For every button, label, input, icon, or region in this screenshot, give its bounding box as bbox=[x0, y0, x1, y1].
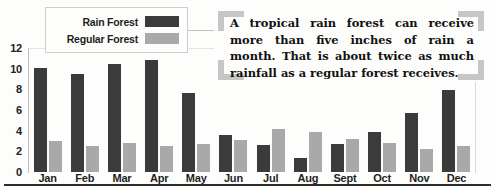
x-axis-label-apr: Apr bbox=[141, 172, 178, 184]
legend-item-rain-forest: Rain Forest bbox=[46, 13, 179, 30]
bar-jan-rain-forest bbox=[34, 68, 47, 172]
y-axis-tick-label: 12 bbox=[10, 42, 22, 54]
x-axis-label-mar: Mar bbox=[103, 172, 140, 184]
y-axis-tick-label: 0 bbox=[16, 166, 22, 178]
annotation-callout: A tropical rain forest can receive more … bbox=[214, 8, 486, 82]
bar-mar-regular-forest bbox=[123, 143, 136, 172]
x-axis-label-aug: Aug bbox=[289, 172, 326, 184]
bar-feb-regular-forest bbox=[86, 146, 99, 172]
bar-group-feb bbox=[66, 48, 103, 172]
bracket-top-right-vertical bbox=[478, 11, 484, 31]
bar-may-rain-forest bbox=[182, 93, 195, 172]
x-axis-label-feb: Feb bbox=[66, 172, 103, 184]
bar-group-mar bbox=[103, 48, 140, 172]
legend-swatch-rain-forest bbox=[145, 16, 179, 27]
y-axis-tick-label: 10 bbox=[10, 63, 22, 75]
bar-group-jan bbox=[29, 48, 66, 172]
x-axis-label-jun: Jun bbox=[215, 172, 252, 184]
bar-sept-regular-forest bbox=[346, 139, 359, 172]
legend-swatch-regular-forest bbox=[145, 33, 179, 44]
x-axis-label-jul: Jul bbox=[252, 172, 289, 184]
legend-label-rain-forest: Rain Forest bbox=[82, 16, 138, 28]
bar-jul-rain-forest bbox=[257, 145, 270, 172]
bar-oct-regular-forest bbox=[383, 143, 396, 172]
legend-label-regular-forest: Regular Forest bbox=[67, 33, 138, 45]
y-axis-tick-label: 2 bbox=[16, 145, 22, 157]
bar-group-apr bbox=[141, 48, 178, 172]
bar-jul-regular-forest bbox=[272, 129, 285, 172]
x-axis: JanFebMarAprMayJunJulAugSeptOctNovDec bbox=[29, 172, 475, 184]
bracket-bottom-left-vertical bbox=[218, 60, 224, 80]
bar-nov-rain-forest bbox=[405, 113, 418, 172]
callout-text: A tropical rain forest can receive more … bbox=[230, 15, 474, 81]
bracket-bottom-right-vertical bbox=[478, 60, 484, 80]
bar-sept-rain-forest bbox=[331, 144, 344, 172]
rainfall-bar-chart: 024681012 JanFebMarAprMayJunJulAugSeptOc… bbox=[0, 0, 495, 190]
x-axis-label-nov: Nov bbox=[401, 172, 438, 184]
y-axis-tick-label: 6 bbox=[16, 104, 22, 116]
x-axis-label-may: May bbox=[178, 172, 215, 184]
x-axis-label-jan: Jan bbox=[29, 172, 66, 184]
y-axis-tick-label: 8 bbox=[16, 83, 22, 95]
bar-dec-rain-forest bbox=[442, 90, 455, 172]
bar-jan-regular-forest bbox=[49, 141, 62, 172]
bar-apr-rain-forest bbox=[145, 60, 158, 172]
chart-legend: Rain Forest Regular Forest bbox=[45, 7, 188, 53]
bracket-top-left-vertical bbox=[218, 11, 224, 31]
bar-nov-regular-forest bbox=[420, 149, 433, 172]
bar-mar-rain-forest bbox=[108, 64, 121, 173]
bar-oct-rain-forest bbox=[368, 132, 381, 172]
bar-jun-rain-forest bbox=[219, 135, 232, 172]
legend-item-regular-forest: Regular Forest bbox=[46, 30, 179, 47]
bar-dec-regular-forest bbox=[457, 146, 470, 172]
bar-feb-rain-forest bbox=[71, 74, 84, 172]
bar-aug-rain-forest bbox=[294, 158, 307, 172]
bottom-divider-rule bbox=[4, 184, 491, 186]
bar-group-may bbox=[178, 48, 215, 172]
y-axis-tick-label: 4 bbox=[16, 125, 22, 137]
bar-apr-regular-forest bbox=[160, 146, 173, 172]
x-axis-label-sept: Sept bbox=[326, 172, 363, 184]
y-axis: 024681012 bbox=[0, 48, 26, 173]
x-axis-label-oct: Oct bbox=[364, 172, 401, 184]
bar-aug-regular-forest bbox=[309, 132, 322, 172]
bar-jun-regular-forest bbox=[234, 140, 247, 172]
bar-may-regular-forest bbox=[197, 144, 210, 172]
x-axis-label-dec: Dec bbox=[438, 172, 475, 184]
